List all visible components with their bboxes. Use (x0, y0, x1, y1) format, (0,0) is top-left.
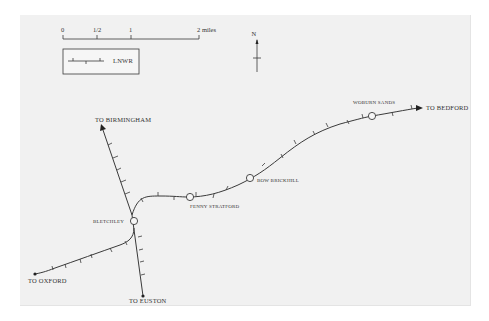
north-arrow: N (252, 30, 261, 72)
destination-label-oxford: TO OXFORD (28, 277, 67, 284)
scale-tick-0: 0 (61, 26, 64, 33)
station-label-fenny-stratford: FENNY STRATFORD (190, 204, 240, 209)
station-label-bletchley: BLETCHLEY (93, 219, 124, 224)
scale-bar (63, 35, 199, 39)
legend: LNWR (63, 49, 139, 74)
station-markers (130, 112, 375, 224)
station-marker-woburn-sands (368, 112, 375, 119)
station-marker-bletchley (130, 217, 137, 224)
scale-tick-2: 2 miles (197, 26, 216, 33)
map-canvas: 0 1/2 1 2 miles LNWR N (0, 0, 489, 321)
north-label: N (252, 30, 257, 37)
destination-label-birmingham: TO BIRMINGHAM (95, 116, 151, 123)
arrow-oxford-icon (33, 272, 36, 275)
station-label-woburn-sands: WOBURN SANDS (353, 100, 395, 105)
station-marker-fenny-stratford (186, 193, 193, 200)
arrow-birmingham-icon (100, 124, 106, 131)
station-marker-bow-brickhill (246, 174, 253, 181)
station-label-bow-brickhill: BOW BRICKHILL (257, 178, 299, 183)
arrow-bedford-icon (416, 105, 423, 111)
scale-tick-half: 1/2 (93, 26, 101, 33)
destination-label-bedford: TO BEDFORD (426, 104, 469, 111)
destination-label-euston: TO EUSTON (129, 297, 167, 304)
scale-tick-1: 1 (129, 26, 132, 33)
line-terminals (33, 105, 423, 298)
railway-lines (35, 108, 418, 296)
legend-label-lnwr: LNWR (113, 57, 133, 64)
